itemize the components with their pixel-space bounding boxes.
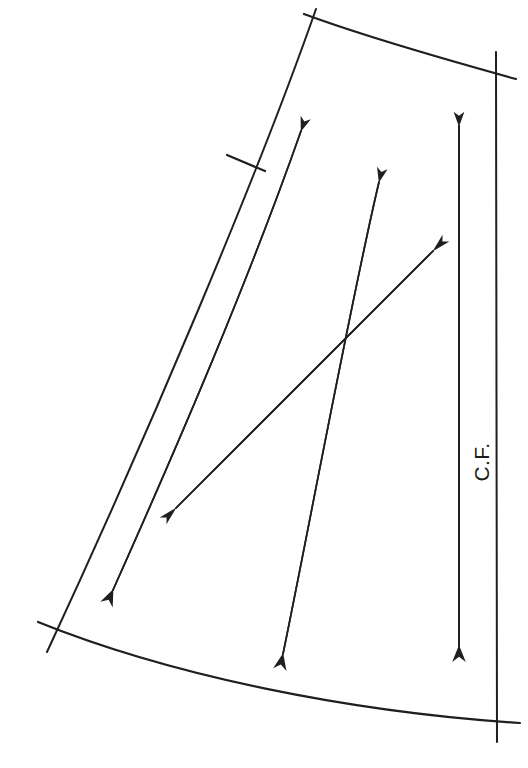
center-front-label: C.F. [470,443,493,482]
pattern-figure: C.F. [0,0,528,768]
figure-background [0,0,528,768]
right-edge-straight [496,52,497,742]
pattern-drawing-canvas: C.F. [0,0,528,768]
